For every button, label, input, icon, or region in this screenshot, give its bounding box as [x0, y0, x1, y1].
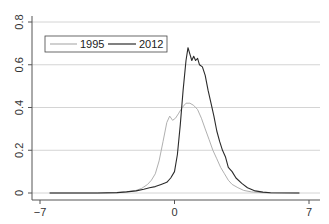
y-tick-label: 0.6	[13, 57, 25, 72]
series-lines	[50, 48, 300, 193]
y-tick-label: 0.8	[13, 14, 25, 29]
density-chart: 00.20.40.60.8 −707 1995 2012	[0, 0, 329, 224]
legend: 1995 2012	[45, 36, 167, 52]
y-ticks: 00.20.40.60.8	[13, 14, 32, 196]
legend-label-2012: 2012	[139, 38, 163, 50]
x-ticks: −707	[34, 200, 312, 218]
x-tick-label: 0	[171, 206, 177, 218]
legend-label-1995: 1995	[80, 38, 104, 50]
series-line-2012	[50, 48, 300, 193]
x-tick-label: −7	[34, 206, 47, 218]
y-tick-label: 0.2	[13, 143, 25, 158]
x-tick-label: 7	[306, 206, 312, 218]
y-tick-label: 0	[13, 190, 25, 196]
series-line-1995	[50, 103, 300, 193]
y-tick-label: 0.4	[13, 100, 25, 115]
